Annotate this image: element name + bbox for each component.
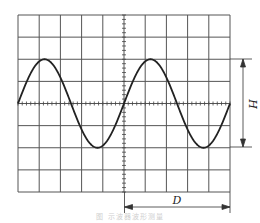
period-label: D bbox=[172, 194, 182, 207]
arrow-down-icon bbox=[241, 139, 246, 147]
arrow-left-icon bbox=[125, 205, 133, 210]
height-label: H bbox=[246, 98, 259, 109]
arrow-up-icon bbox=[241, 59, 246, 67]
arrow-right-icon bbox=[222, 205, 230, 210]
figure-caption: 图 示波器波形测量 bbox=[0, 211, 260, 221]
oscilloscope-diagram: H D bbox=[0, 0, 260, 223]
